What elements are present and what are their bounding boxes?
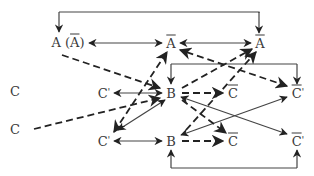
node-C-top: C (10, 85, 20, 98)
node-C-top-label: C (10, 84, 20, 99)
diagram-canvas (0, 0, 314, 176)
node-Cbar-bottom-label: C (228, 134, 238, 149)
node-Cbarprime-top-label: C' (292, 86, 305, 101)
node-Cbarprime-top: C' (292, 87, 305, 100)
node-Abar-left-label: A (166, 36, 175, 51)
node-A: A (A) (51, 36, 84, 49)
edge-C-B-dashed (34, 98, 160, 129)
node-Cprime-top-label: C' (98, 86, 111, 101)
node-Cbarprime-bottom-label: C' (292, 134, 305, 149)
node-C-bottom: C (10, 123, 20, 136)
node-Cprime-bottom: C' (98, 135, 111, 148)
node-A-label: A (A) (51, 35, 84, 50)
node-Cprime-bottom-label: C' (98, 134, 111, 149)
node-Abar-right-label: A (255, 36, 264, 51)
top-bracket-edge (59, 12, 259, 13)
node-Cbar-bottom: C (228, 135, 238, 148)
node-Cprime-top: C' (98, 87, 111, 100)
node-C-bottom-label: C (10, 122, 20, 137)
node-Abar-right: A (255, 37, 264, 50)
node-B-top: B (166, 87, 176, 100)
node-Cbar-top: C (228, 87, 238, 100)
node-Cbarprime-bottom: C' (292, 135, 305, 148)
node-B-top-label: B (166, 86, 176, 101)
node-Cbar-top-label: C (228, 86, 238, 101)
edge-Cp-Abar1 (114, 52, 167, 132)
node-Abar-left: A (166, 37, 175, 50)
edge-A-B-dashed (62, 55, 160, 88)
node-B-bottom-label: B (166, 134, 176, 149)
node-B-bottom: B (166, 135, 176, 148)
edge-Cp-bottom-Abar1-solid (118, 100, 165, 130)
